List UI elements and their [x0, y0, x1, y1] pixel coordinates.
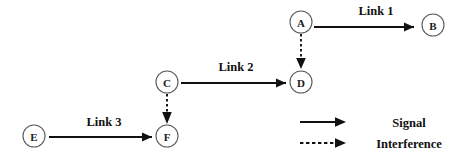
node-e-label: E	[30, 131, 37, 143]
node-b-label: B	[429, 20, 437, 32]
edge-interference-c-f	[162, 94, 172, 124]
edge-interference-a-d-arrowhead	[296, 58, 306, 69]
legend-signal-arrowhead	[335, 117, 346, 127]
legend-item-interference: Interference	[300, 137, 442, 151]
edge-link-3: Link 3	[49, 115, 152, 141]
node-c[interactable]: C	[156, 71, 178, 93]
node-d[interactable]: D	[290, 71, 312, 93]
legend: Signal Interference	[300, 116, 442, 151]
node-d-label: D	[297, 77, 305, 89]
node-e[interactable]: E	[23, 125, 45, 147]
node-f-label: F	[164, 131, 171, 143]
legend-signal-label: Signal	[392, 116, 426, 130]
legend-item-signal: Signal	[300, 116, 426, 130]
edge-link-1-arrowhead	[404, 23, 414, 32]
edge-link-2-label: Link 2	[218, 60, 253, 74]
node-a[interactable]: A	[290, 11, 312, 33]
node-a-label: A	[297, 17, 305, 29]
edge-interference-a-d	[296, 34, 306, 69]
diagram-canvas: Link 1 Link 2 Link 3 A	[0, 0, 463, 157]
legend-interference-arrowhead	[335, 138, 346, 148]
edge-link-2: Link 2	[181, 60, 286, 87]
edge-link-1: Link 1	[314, 4, 414, 31]
edge-link-3-arrowhead	[142, 133, 152, 142]
edge-link-1-label: Link 1	[358, 4, 393, 18]
node-b[interactable]: B	[422, 14, 444, 36]
node-f[interactable]: F	[156, 125, 178, 147]
edge-link-3-label: Link 3	[86, 115, 121, 129]
network-diagram: Link 1 Link 2 Link 3 A	[0, 0, 463, 157]
edge-interference-c-f-arrowhead	[162, 112, 172, 124]
edge-link-2-arrowhead	[276, 79, 286, 88]
legend-interference-label: Interference	[376, 137, 442, 151]
node-c-label: C	[163, 77, 171, 89]
